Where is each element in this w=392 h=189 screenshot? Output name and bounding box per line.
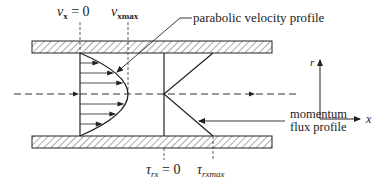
flow-diagram: vx = 0 vxmax parabolic velocity profile … (0, 0, 392, 189)
tau-max-label: τrxmax (197, 162, 225, 179)
velocity-arrow-head (117, 102, 124, 107)
bottom-plate (32, 136, 272, 148)
velocity-profile-label: parabolic velocity profile (193, 10, 325, 25)
vx-max-label: vxmax (111, 4, 139, 21)
top-plate (32, 41, 272, 53)
vx-zero-label: vx = 0 (57, 4, 90, 21)
centerline-arrow-right (249, 92, 255, 97)
velocity-arrow-head (116, 81, 123, 86)
tau-zero-label: τrx = 0 (146, 162, 180, 179)
x-axis-label: x (365, 112, 372, 126)
momentum-label-line2: flux profile (290, 120, 347, 134)
centerline-arrow-left (73, 92, 79, 97)
r-axis-label: r (310, 56, 315, 68)
momentum-label-line1: momentum (290, 107, 347, 121)
